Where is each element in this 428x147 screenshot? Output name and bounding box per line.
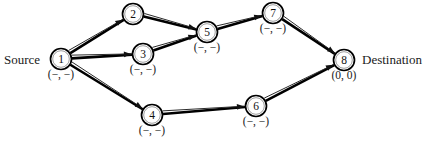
edge-1-3 bbox=[72, 51, 132, 58]
node-6-label-tag: (−, −) bbox=[243, 115, 270, 128]
network-diagram-canvas: 1(−, −)23(−, −)4(−, −)5(−, −)6(−, −)7(−,… bbox=[0, 0, 428, 147]
node-6-id: 6 bbox=[253, 100, 259, 112]
node-5-label-tag: (−, −) bbox=[194, 41, 221, 54]
source-text-label: Source bbox=[4, 53, 40, 66]
node-2[interactable]: 2 bbox=[123, 4, 144, 25]
node-3[interactable]: 3(−, −) bbox=[130, 44, 157, 77]
node-8-label-tag: (0, 0) bbox=[332, 69, 357, 82]
edge-6-8 bbox=[264, 65, 334, 101]
node-5[interactable]: 5(−, −) bbox=[194, 22, 221, 55]
edge-4-6 bbox=[163, 104, 245, 114]
edge-5-7 bbox=[217, 15, 263, 29]
network-graph: 1(−, −)23(−, −)4(−, −)5(−, −)6(−, −)7(−,… bbox=[0, 0, 428, 147]
node-3-label-tag: (−, −) bbox=[130, 63, 157, 76]
node-1[interactable]: 1(−, −) bbox=[48, 49, 75, 82]
node-4-label-tag: (−, −) bbox=[139, 124, 166, 137]
node-7[interactable]: 7(−, −) bbox=[260, 3, 287, 36]
edge-1-2 bbox=[69, 20, 124, 53]
node-4[interactable]: 4(−, −) bbox=[139, 105, 166, 138]
destination-text-label: Destination bbox=[362, 53, 422, 66]
node-1-id: 1 bbox=[58, 53, 64, 65]
edge-2-5 bbox=[144, 13, 197, 29]
node-2-id: 2 bbox=[130, 8, 136, 20]
node-8-id: 8 bbox=[341, 54, 347, 66]
nodes-layer: 1(−, −)23(−, −)4(−, −)5(−, −)6(−, −)7(−,… bbox=[48, 3, 357, 138]
edge-7-8 bbox=[282, 16, 335, 54]
node-8[interactable]: 8(0, 0) bbox=[332, 50, 357, 83]
node-5-id: 5 bbox=[204, 26, 210, 38]
node-3-id: 3 bbox=[140, 48, 146, 60]
node-7-id: 7 bbox=[270, 7, 276, 19]
edge-3-5 bbox=[152, 35, 196, 51]
node-4-id: 4 bbox=[149, 109, 155, 121]
node-7-label-tag: (−, −) bbox=[260, 22, 287, 35]
node-1-label-tag: (−, −) bbox=[48, 68, 75, 81]
node-6[interactable]: 6(−, −) bbox=[243, 96, 270, 129]
